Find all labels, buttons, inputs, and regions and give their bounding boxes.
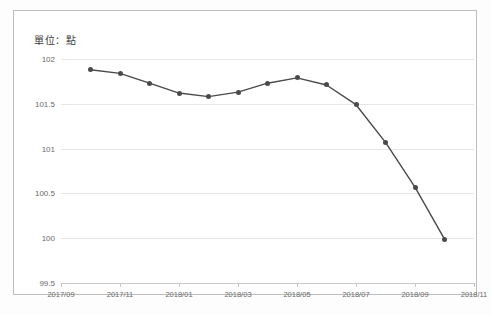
data-point <box>177 91 182 96</box>
x-tick-mark <box>297 283 298 287</box>
x-tick-label: 2018/09 <box>401 290 428 299</box>
y-tick-label: 102 <box>42 55 55 64</box>
x-tick-mark <box>474 283 475 287</box>
unit-label: 單位：點 <box>34 32 76 47</box>
x-tick-mark <box>415 283 416 287</box>
x-tick-label: 2018/03 <box>224 290 251 299</box>
y-tick-label: 100 <box>42 234 55 243</box>
data-point <box>354 102 359 107</box>
y-tick-label: 99.5 <box>39 279 55 288</box>
data-point <box>383 140 388 145</box>
x-tick-mark <box>120 283 121 287</box>
x-tick-label: 2017/11 <box>107 290 134 299</box>
x-tick-label: 2018/05 <box>283 290 310 299</box>
y-tick-label: 101 <box>42 144 55 153</box>
x-tick-mark <box>61 283 62 287</box>
x-tick-mark <box>179 283 180 287</box>
data-point <box>295 75 300 80</box>
data-point <box>265 81 270 86</box>
data-point <box>413 185 418 190</box>
data-point <box>118 71 123 76</box>
y-tick-label: 101.5 <box>35 99 55 108</box>
data-point <box>442 237 447 242</box>
series-line <box>61 59 474 283</box>
x-axis <box>61 283 474 284</box>
x-tick-mark <box>238 283 239 287</box>
x-tick-label: 2018/01 <box>165 290 192 299</box>
x-tick-label: 2018/11 <box>461 290 488 299</box>
x-tick-label: 2018/07 <box>342 290 369 299</box>
y-tick-label: 100.5 <box>35 189 55 198</box>
chart-page: 單位：點 102101.5101100.510099.5 2017/092017… <box>0 0 491 315</box>
x-tick-label: 2017/09 <box>47 290 74 299</box>
x-tick-mark <box>356 283 357 287</box>
data-point <box>236 90 241 95</box>
chart-frame: 單位：點 102101.5101100.510099.5 2017/092017… <box>13 10 477 295</box>
data-point <box>147 81 152 86</box>
